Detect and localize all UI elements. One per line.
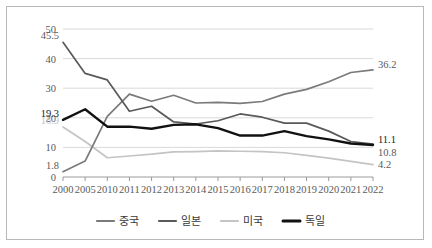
x-axis-tick-label: 2013 xyxy=(163,184,184,195)
legend-label-일본[interactable]: 일본 xyxy=(181,214,201,227)
data-label-right: 4.2 xyxy=(378,159,391,170)
x-axis-tick-label: 2016 xyxy=(230,184,251,195)
x-axis-tick-label: 2018 xyxy=(274,184,295,195)
x-axis-tick-label: 2020 xyxy=(318,184,339,195)
x-axis-tick-label: 2017 xyxy=(252,184,273,195)
y-axis-tick-label: 10 xyxy=(46,142,57,153)
data-label-left: 16.9 xyxy=(41,115,59,126)
x-axis-tick-label: 2019 xyxy=(296,184,317,195)
series-line-미국[interactable] xyxy=(63,127,373,165)
chart-plot-area: 0102030405020002005201020112012201320142… xyxy=(7,7,423,239)
data-label-right: 11.1 xyxy=(378,134,396,145)
data-label-left: 1.8 xyxy=(46,160,59,171)
data-label-right: 10.8 xyxy=(378,147,396,158)
x-axis-tick-label: 2000 xyxy=(53,184,74,195)
x-axis-tick-label: 2011 xyxy=(119,184,140,195)
legend-label-독일[interactable]: 독일 xyxy=(305,214,325,227)
chart-frame: 0102030405020002005201020112012201320142… xyxy=(6,6,424,240)
x-axis-tick-label: 2010 xyxy=(97,184,118,195)
data-label-left: 45.5 xyxy=(41,30,59,41)
x-axis-tick-label: 2021 xyxy=(340,184,361,195)
y-axis-tick-label: 40 xyxy=(46,54,57,65)
x-axis-tick-label: 2005 xyxy=(75,184,96,195)
y-axis-tick-label: 0 xyxy=(51,172,56,183)
x-axis-tick-label: 2015 xyxy=(208,184,229,195)
legend-label-중국[interactable]: 중국 xyxy=(119,215,139,227)
x-axis-tick-label: 2012 xyxy=(141,184,162,195)
x-axis-tick-label: 2022 xyxy=(363,184,384,195)
y-axis-tick-label: 30 xyxy=(46,83,57,94)
legend-label-미국[interactable]: 미국 xyxy=(243,215,263,227)
line-chart: 0102030405020002005201020112012201320142… xyxy=(7,7,423,239)
data-label-right: 36.2 xyxy=(378,59,396,70)
x-axis-tick-label: 2014 xyxy=(185,184,207,195)
